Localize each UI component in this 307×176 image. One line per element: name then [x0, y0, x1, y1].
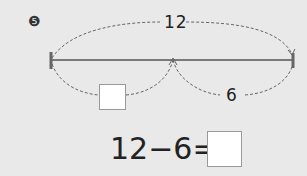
equation-minuend: 12 [110, 131, 148, 166]
left-part-answer-box[interactable] [99, 84, 126, 110]
equation-subtrahend: 6 [173, 131, 192, 166]
equation-operator: − [148, 131, 173, 166]
equation-answer-box[interactable] [207, 131, 242, 167]
total-label: 12 [164, 12, 188, 32]
equation: 12 − 6 = [110, 130, 218, 166]
right-part-label: 6 [226, 85, 237, 105]
